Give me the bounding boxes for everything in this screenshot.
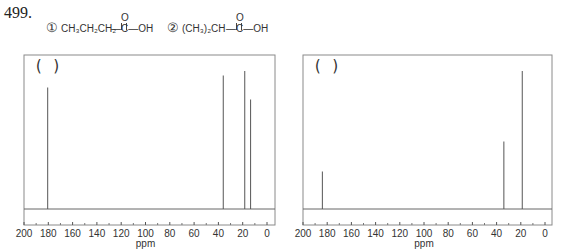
x-tick-label: 0 (264, 228, 270, 239)
x-tick-label: 60 (467, 228, 479, 239)
x-tick-label: 180 (319, 228, 336, 239)
x-tick-label: 40 (213, 228, 225, 239)
x-tick-label: 140 (89, 228, 106, 239)
x-tick-label: 60 (189, 228, 201, 239)
x-tick-label: 20 (515, 228, 527, 239)
x-tick-label: 140 (367, 228, 384, 239)
x-tick-label: 180 (40, 228, 57, 239)
x-tick-label: 160 (64, 228, 81, 239)
spectrum-panel-2: 200180160140120100806040200ppm( ) (295, 55, 552, 249)
answer-blank: ( ) (313, 57, 340, 75)
x-tick-label: 80 (164, 228, 176, 239)
nmr-spectra: 200180160140120100806040200ppm( )2001801… (0, 0, 569, 251)
x-axis-label: ppm (414, 238, 433, 249)
x-tick-label: 40 (491, 228, 503, 239)
x-tick-label: 120 (391, 228, 408, 239)
x-tick-label: 0 (542, 228, 548, 239)
x-tick-label: 120 (113, 228, 130, 239)
spectrum-panel-1: 200180160140120100806040200ppm( ) (16, 55, 275, 249)
x-axis-label: ppm (136, 238, 155, 249)
plot-frame (24, 55, 275, 225)
plot-frame (303, 55, 552, 225)
x-tick-label: 200 (295, 228, 312, 239)
answer-blank: ( ) (34, 57, 61, 75)
x-tick-label: 160 (343, 228, 360, 239)
x-tick-label: 80 (443, 228, 455, 239)
x-tick-label: 20 (237, 228, 249, 239)
x-tick-label: 200 (16, 228, 33, 239)
